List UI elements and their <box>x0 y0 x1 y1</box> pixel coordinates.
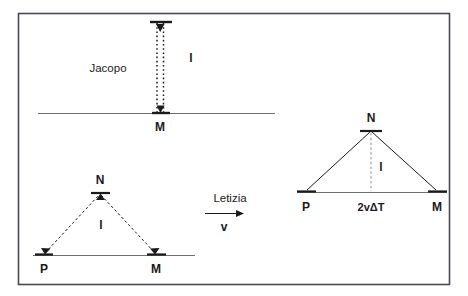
velocity-label: v <box>221 220 228 234</box>
left-triangle-point-label-n: N <box>96 173 105 187</box>
left-triangle-point-label-p: P <box>40 262 48 276</box>
diagram-frame <box>19 14 450 285</box>
right-triangle-base-label: 2vΔT <box>358 201 385 213</box>
jacopo-point-label-m: M <box>155 120 165 134</box>
jacopo-observer-label: Jacopo <box>89 62 126 74</box>
diagram-figure: Jacopo l M l <box>0 0 468 296</box>
right-triangle-point-label-p: P <box>302 200 310 214</box>
jacopo-length-label: l <box>189 51 192 65</box>
right-triangle-point-label-m: M <box>432 200 442 214</box>
physics-diagram-canvas: Jacopo l M l <box>0 0 468 296</box>
left-triangle-point-label-m: M <box>151 262 161 276</box>
right-triangle-point-label-n: N <box>367 111 376 125</box>
left-triangle-length-label: l <box>99 218 102 232</box>
right-triangle-length-label: l <box>379 160 382 174</box>
letizia-observer-label: Letizia <box>213 192 247 204</box>
